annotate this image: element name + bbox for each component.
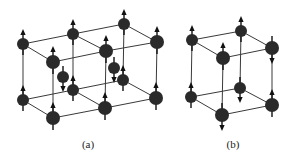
atom-sphere	[149, 91, 163, 105]
arrow-up-icon	[103, 35, 108, 41]
spin-up-atom	[265, 89, 279, 117]
atom-sphere	[99, 44, 113, 58]
spin-lattice-figure: (a) (b)	[0, 0, 292, 156]
lattice-bond	[73, 80, 123, 90]
atom-sphere	[98, 101, 112, 115]
spin-up-atom	[118, 9, 130, 35]
arrow-up-icon	[20, 29, 25, 35]
lattice-bond	[191, 88, 240, 97]
arrow-up-icon	[50, 102, 55, 108]
lattice-bond	[73, 24, 124, 34]
atom-sphere	[67, 28, 79, 40]
atom-sphere	[215, 108, 229, 122]
atom-sphere	[265, 98, 279, 112]
lattice-bond	[53, 108, 105, 118]
spin-up-atom	[235, 16, 247, 42]
arrow-down-icon	[237, 97, 242, 103]
lattice-bond	[223, 48, 272, 58]
atom-sphere	[150, 35, 164, 49]
arrow-up-icon	[120, 65, 125, 71]
arrow-down-icon	[60, 86, 65, 92]
atom-sphere	[17, 38, 29, 50]
atom-sphere	[265, 41, 279, 55]
spin-up-atom	[149, 82, 163, 110]
panel-b-label: (b)	[227, 138, 240, 150]
atom-sphere	[118, 18, 130, 30]
spin-up-atom	[216, 42, 230, 70]
panel-a-lattice	[17, 9, 164, 130]
lattice-bond	[192, 31, 241, 40]
arrow-up-icon	[188, 82, 193, 88]
atom-sphere	[46, 111, 60, 125]
arrow-up-icon	[20, 85, 25, 91]
spin-up-atom	[67, 75, 79, 101]
atom-sphere	[108, 62, 120, 74]
atom-sphere	[46, 55, 60, 69]
atom-sphere	[235, 25, 247, 37]
spin-up-atom	[99, 35, 113, 63]
atom-sphere	[234, 82, 246, 94]
arrow-up-icon	[70, 75, 75, 81]
arrow-up-icon	[220, 42, 225, 48]
lattice-bond	[23, 34, 73, 44]
atom-sphere	[67, 84, 79, 96]
spin-up-atom	[98, 92, 112, 120]
spin-up-atom	[17, 29, 29, 55]
lattice-diagram-svg	[0, 0, 292, 156]
atom-sphere	[186, 34, 198, 46]
arrow-up-icon	[50, 46, 55, 52]
atom-sphere	[185, 91, 197, 103]
arrow-up-icon	[121, 9, 126, 15]
atom-sphere	[216, 51, 230, 65]
spin-up-atom	[186, 25, 198, 51]
panel-a-label: (a)	[82, 138, 94, 150]
arrow-up-icon	[153, 82, 158, 88]
arrow-down-icon	[219, 125, 224, 131]
spin-up-atom	[46, 46, 60, 74]
lattice-bond	[106, 42, 157, 51]
panel-b-lattice	[185, 16, 279, 131]
arrow-up-icon	[102, 92, 107, 98]
arrow-down-icon	[269, 58, 274, 64]
arrow-up-icon	[269, 89, 274, 95]
spin-down-atom	[234, 77, 246, 103]
spin-down-atom	[215, 103, 229, 131]
atom-sphere	[117, 74, 129, 86]
arrow-up-icon	[70, 19, 75, 25]
atom-sphere	[57, 71, 69, 83]
arrow-up-icon	[238, 16, 243, 22]
atom-sphere	[17, 94, 29, 106]
lattice-bond	[105, 98, 156, 108]
arrow-up-icon	[154, 26, 159, 32]
spin-up-atom	[185, 82, 197, 108]
spin-up-atom	[46, 102, 60, 130]
spin-down-atom	[265, 36, 279, 64]
lattice-bond	[222, 105, 272, 115]
lattice-bond	[23, 90, 73, 100]
spin-up-atom	[67, 19, 79, 45]
spin-up-atom	[17, 85, 29, 111]
spin-down-atom	[57, 66, 69, 92]
arrow-up-icon	[189, 25, 194, 31]
spin-up-atom	[150, 26, 164, 54]
lattice-bond	[53, 51, 106, 62]
